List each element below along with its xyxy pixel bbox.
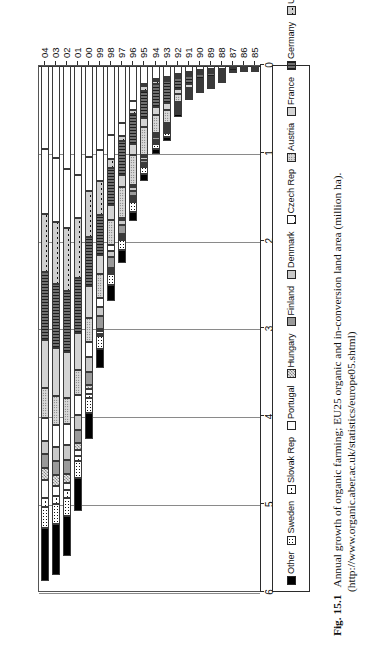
legend-swatch-austria [287,153,296,162]
bar-row-93 [163,66,171,591]
bar-segment-germany [129,114,137,144]
bar-segment-finland [41,454,49,468]
bar-segment-other [118,250,126,262]
bar-segment-sweden [74,461,82,478]
bar-segment-italy [196,66,204,70]
bar-segment-portugal [107,270,115,272]
bar-segment-u-kingdom [140,86,148,90]
bar-segment-other [107,285,115,301]
category-tick [243,61,244,65]
legend-swatch-hungary [287,370,296,379]
bar-segment-germany [163,81,171,103]
bar-segment-sweden [140,167,148,174]
bar-segment-hungary [63,474,71,483]
bar-segment-denmark [107,251,115,256]
bar-segment-denmark [196,85,204,87]
chart-plot-area [38,65,260,592]
bar-segment-germany [218,71,226,74]
category-tick [132,61,133,65]
bar-segment-germany [107,168,115,205]
bar-segment-other [185,98,193,100]
bar-segment-germany [185,76,193,84]
bar-segment-slovak-rep [129,200,137,202]
bar-segment-slovak-rep [41,498,49,507]
legend-label: U. Kingdom [286,0,296,4]
legend-item: Other [286,552,296,585]
bar-segment-sweden [185,96,193,98]
bar-segment-germany [174,78,182,89]
bar-segment-austria [185,88,193,91]
bar-segment-spain [63,169,71,228]
bar-segment-u-kingdom [96,181,104,215]
bar-segment-portugal [140,165,148,167]
bar-segment-france [251,70,259,72]
bar-segment-u-kingdom [152,81,160,84]
gridline [39,593,260,594]
chart-legend: OtherSwedenSlovak RepPortugalHungaryFinl… [272,65,310,592]
category-tick-label: 95 [138,47,149,58]
bar-segment-other [207,87,215,89]
bar-segment-denmark [96,307,104,316]
bar-segment-france [229,71,237,73]
bar-segment-other [163,137,171,141]
bar-segment-hungary [163,129,171,131]
bar-segment-u-kingdom [74,218,82,278]
bar-segment-france [41,340,49,388]
bar-segment-slovak-rep [85,394,93,398]
bar-segment-germany [74,278,82,333]
category-tick-label: 98 [105,47,116,58]
bar-segment-finland [52,461,60,475]
bar-segment-italy [52,66,60,158]
bar-segment-u-kingdom [118,136,126,140]
bar-segment-austria [96,274,104,298]
figure-number: Fig. 15.1 [331,595,343,636]
bar-segment-denmark [129,187,137,191]
bar-segment-france [218,73,226,75]
category-tick-label: 03 [49,47,60,58]
bar-segment-portugal [174,110,182,112]
bar-segment-finland [107,257,115,268]
category-tick-label: 90 [193,47,204,58]
category-tick-label: 02 [60,47,71,58]
bar-segment-czech-rep [118,218,126,220]
bar-segment-slovak-rep [63,490,71,498]
bar-segment-denmark [140,157,148,161]
bar-segment-austria [140,127,148,155]
bar-segment-spain [52,158,60,222]
category-tick [143,61,144,65]
category-tick [221,61,222,65]
legend-label: Finland [286,286,296,315]
category-tick-label: 87 [227,47,238,58]
legend-swatch-france [287,107,296,116]
bar-segment-france [85,286,93,318]
legend-item: Austria [286,123,296,162]
bar-segment-spain [174,74,182,76]
bar-segment-u-kingdom [41,214,49,273]
bar-row-00 [85,66,93,591]
bar-segment-hungary [107,268,115,270]
bar-segment-spain [140,84,148,87]
bar-segment-denmark [63,445,71,460]
bar-segment-france [63,352,71,398]
bar-row-97 [118,66,126,591]
bar-segment-czech-rep [96,298,104,308]
category-tick-label: 92 [171,47,182,58]
legend-label: Portugal [286,386,296,419]
category-tick [44,61,45,65]
bar-segment-portugal [41,480,49,498]
bar-segment-czech-rep [41,418,49,441]
category-tick-label: 04 [38,47,49,58]
bar-segment-slovak-rep [52,496,60,504]
category-tick-label: 85 [249,47,260,58]
figure-caption-text: Annual growth of organic farming; EU25 o… [331,173,343,588]
bar-segment-germany [196,74,204,78]
bar-segment-austria [129,155,137,185]
bar-segment-czech-rep [52,425,60,447]
bar-row-89 [207,66,215,591]
bar-segment-spain [129,101,137,110]
category-tick [121,61,122,65]
category-tick-label: 96 [127,47,138,58]
legend-swatch-czech-rep [287,215,296,224]
figure-source-url: (http://www.organic.aber.ac.uk/statistic… [344,36,358,592]
bar-segment-portugal [63,483,71,490]
